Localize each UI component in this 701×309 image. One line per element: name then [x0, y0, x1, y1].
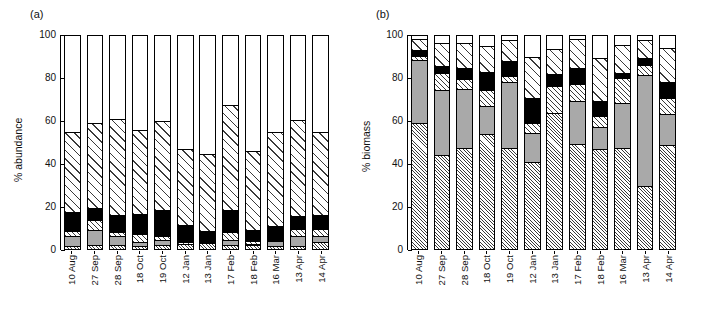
- stacked-bar[interactable]: [245, 35, 262, 250]
- stacked-bar[interactable]: [501, 35, 518, 250]
- bar-segment-fine-hatch: [178, 245, 193, 249]
- x-label-slot: 28 Sep: [452, 251, 475, 307]
- bar-segment-black: [638, 59, 653, 65]
- stacked-bar[interactable]: [456, 35, 473, 250]
- bar-segment-coarse-hatch: [502, 41, 517, 61]
- stacked-bar[interactable]: [312, 35, 329, 250]
- bar-segment-fine-hatch: [246, 246, 261, 249]
- stacked-bar[interactable]: [479, 35, 496, 250]
- bar-segment-fine-hatch: [547, 114, 562, 249]
- stacked-bar[interactable]: [199, 35, 216, 250]
- x-tick-label: 14 Apr: [662, 255, 673, 283]
- bar-segment-fine-hatch: [570, 145, 585, 249]
- bar-segment-black: [133, 215, 148, 235]
- bar-segment-hatch: [178, 243, 193, 245]
- stacked-bar[interactable]: [177, 35, 194, 250]
- bar-segment-white: [88, 36, 103, 124]
- stacked-bar[interactable]: [87, 35, 104, 250]
- stacked-bar[interactable]: [64, 35, 81, 250]
- bar-segment-fine-hatch: [133, 247, 148, 249]
- bar-segment-black: [435, 67, 450, 74]
- stacked-bar[interactable]: [614, 35, 631, 250]
- panel-b-x-axis-labels: 10 Aug27 Sep28 Sep18 Oct19 Oct12 Jan13 J…: [407, 251, 679, 307]
- bar-segment-black: [660, 83, 675, 99]
- bar-segment-fine-hatch: [502, 149, 517, 249]
- bar-segment-gray: [65, 237, 80, 247]
- bar-segment-fine-hatch: [525, 163, 540, 249]
- stacked-bar[interactable]: [222, 35, 239, 250]
- bar-segment-coarse-hatch: [615, 46, 630, 75]
- x-tick-mark: [441, 251, 442, 254]
- x-tick-mark: [554, 251, 555, 254]
- bar-segment-fine-hatch: [313, 243, 328, 249]
- stacked-bar[interactable]: [659, 35, 676, 250]
- bar-segment-white: [291, 36, 306, 121]
- bar-slot: [196, 35, 219, 250]
- bar-segment-coarse-hatch: [155, 122, 170, 210]
- bar-segment-black: [88, 209, 103, 222]
- bar-segment-coarse-hatch: [570, 40, 585, 69]
- stacked-bar[interactable]: [109, 35, 126, 250]
- bar-segment-gray: [457, 90, 472, 149]
- y-tick-60: 60: [22, 116, 61, 126]
- bar-segment-white: [615, 36, 630, 46]
- x-tick-label: 13 Apr: [640, 255, 651, 283]
- stacked-bar[interactable]: [154, 35, 171, 250]
- bar-segment-gray: [525, 134, 540, 163]
- y-tick-mark: [408, 121, 412, 122]
- bar-segment-white: [638, 36, 653, 41]
- x-tick-label: 18 Feb: [594, 255, 605, 285]
- bar-slot: [453, 35, 476, 250]
- x-tick-label: 13 Apr: [293, 255, 304, 283]
- x-tick-mark: [298, 251, 299, 254]
- bar-segment-hatch: [480, 91, 495, 107]
- bar-segment-black: [480, 73, 495, 91]
- bar-segment-black: [313, 216, 328, 230]
- x-label-slot: 16 Mar: [611, 251, 634, 307]
- bar-segment-black: [525, 99, 540, 125]
- x-tick-mark: [418, 251, 419, 254]
- y-tick-0: 0: [22, 245, 61, 255]
- bar-slot: [106, 35, 129, 250]
- bar-segment-hatch: [412, 57, 427, 60]
- stacked-bar[interactable]: [411, 35, 428, 250]
- x-tick-mark: [162, 251, 163, 254]
- bar-segment-hatch: [457, 80, 472, 91]
- x-tick-label: 16 Mar: [617, 255, 628, 285]
- stacked-bar[interactable]: [524, 35, 541, 250]
- x-label-slot: 19 Oct: [498, 251, 521, 307]
- x-tick-mark: [321, 251, 322, 254]
- bar-segment-white: [155, 36, 170, 122]
- bar-segment-coarse-hatch: [638, 41, 653, 59]
- bar-slot: [174, 35, 197, 250]
- stacked-bar[interactable]: [132, 35, 149, 250]
- bar-segment-coarse-hatch: [88, 124, 103, 208]
- bar-segment-coarse-hatch: [660, 49, 675, 83]
- stacked-bar[interactable]: [569, 35, 586, 250]
- bar-segment-gray: [480, 107, 495, 135]
- bar-segment-coarse-hatch: [593, 59, 608, 102]
- x-tick-label: 12 Jan: [179, 255, 190, 284]
- bar-segment-black: [178, 226, 193, 243]
- stacked-bar[interactable]: [592, 35, 609, 250]
- stacked-bar[interactable]: [290, 35, 307, 250]
- bar-segment-gray: [412, 61, 427, 125]
- panel-a-tag: (a): [30, 8, 43, 20]
- bar-segment-gray: [638, 76, 653, 187]
- bar-segment-black: [570, 69, 585, 85]
- bar-segment-coarse-hatch: [547, 50, 562, 76]
- stacked-bar[interactable]: [546, 35, 563, 250]
- bar-segment-fine-hatch: [480, 135, 495, 249]
- bar-segment-white: [223, 36, 238, 106]
- bar-segment-white: [457, 36, 472, 43]
- bar-segment-white: [412, 36, 427, 40]
- bar-segment-fine-hatch: [457, 149, 472, 249]
- stacked-bar[interactable]: [267, 35, 284, 250]
- stacked-bar[interactable]: [434, 35, 451, 250]
- x-tick-mark: [230, 251, 231, 254]
- bar-segment-gray: [660, 115, 675, 146]
- stacked-bar[interactable]: [637, 35, 654, 250]
- bar-segment-gray: [246, 245, 261, 246]
- bar-segment-hatch: [246, 242, 261, 245]
- bar-segment-white: [246, 36, 261, 152]
